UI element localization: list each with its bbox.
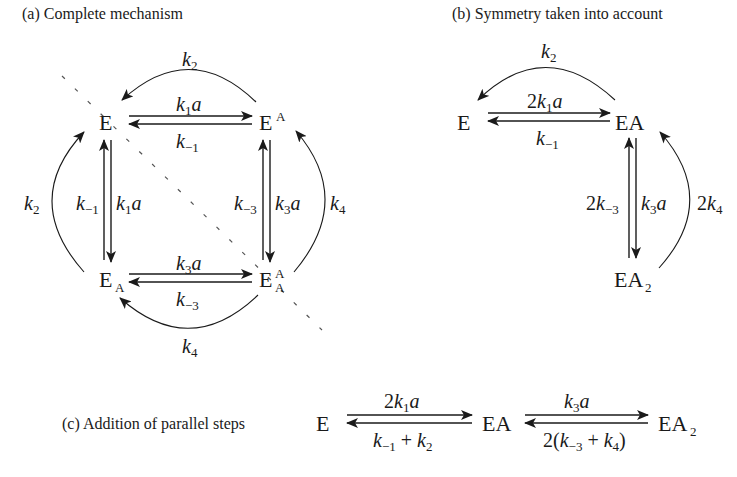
panel-c: (c) Addition of parallel steps E EA EA 2… [62, 390, 697, 454]
label-k-1-top: k−1 [176, 130, 199, 155]
panel-b: (b) Symmetry taken into account E EA EA … [452, 5, 723, 295]
svg-text:EA: EA [614, 267, 643, 292]
label-2k-3-b: 2k−3 [586, 192, 619, 217]
panel-a: (a) Complete mechanism E E A E A E A A k… [22, 5, 346, 360]
species-E-sup-A-sub-A: E A A [259, 266, 285, 295]
svg-text:A: A [276, 109, 286, 124]
svg-text:2: 2 [645, 280, 652, 295]
species-E-c: E [316, 411, 329, 436]
label-k-1-plus-k2-c: k−1 + k2 [373, 429, 432, 454]
label-k3a-b: k3a [641, 192, 666, 217]
svg-text:2: 2 [690, 424, 697, 439]
species-EA2-b: EA 2 [614, 267, 652, 295]
label-2k1a-c: 2k1a [384, 390, 419, 415]
panel-a-caption: (a) Complete mechanism [22, 5, 183, 23]
label-k-3-bottom: k−3 [176, 288, 199, 313]
label-2k1a-b: 2k1a [527, 90, 562, 115]
label-k-1-left: k−1 [76, 192, 99, 217]
species-EA-c: EA [482, 411, 511, 436]
svg-text:A: A [275, 266, 285, 281]
label-k4-bottom: k4 [182, 335, 198, 360]
svg-text:E: E [259, 110, 272, 135]
species-E-b: E [457, 110, 470, 135]
species-E-sub-A: E A [99, 267, 125, 295]
svg-text:EA: EA [658, 411, 687, 436]
kinetic-mechanism-diagram: (a) Complete mechanism E E A E A E A A k… [0, 0, 737, 477]
label-k4-right: k4 [330, 192, 346, 217]
svg-text:A: A [115, 280, 125, 295]
label-k2-top: k2 [182, 48, 197, 73]
species-E-sup-A: E A [259, 109, 286, 135]
label-k2-left: k2 [24, 192, 39, 217]
panel-c-caption: (c) Addition of parallel steps [62, 415, 245, 433]
panel-b-caption: (b) Symmetry taken into account [452, 5, 663, 23]
label-k1a-top: k1a [176, 93, 201, 118]
species-EA2-c: EA 2 [658, 411, 697, 439]
label-k3a-bottom: k3a [176, 252, 201, 277]
svg-text:E: E [259, 267, 272, 292]
arc-k2-b [478, 68, 615, 101]
label-k2-b: k2 [541, 40, 556, 65]
svg-text:A: A [275, 280, 285, 295]
label-2k4-b: 2k4 [697, 192, 723, 217]
label-k3a-right: k3a [275, 192, 300, 217]
label-k3a-c: k3a [564, 390, 589, 415]
label-k1a-left: k1a [116, 192, 141, 217]
svg-text:E: E [99, 110, 112, 135]
label-k-3-right: k−3 [234, 192, 257, 217]
arc-k2-top [122, 69, 256, 102]
label-k-1-b: k−1 [536, 127, 559, 152]
label-2-k-3-plus-k4-c: 2(k−3 + k4) [543, 429, 626, 454]
species-EA-b: EA [615, 110, 644, 135]
species-E: E [99, 110, 112, 135]
svg-text:E: E [99, 267, 112, 292]
